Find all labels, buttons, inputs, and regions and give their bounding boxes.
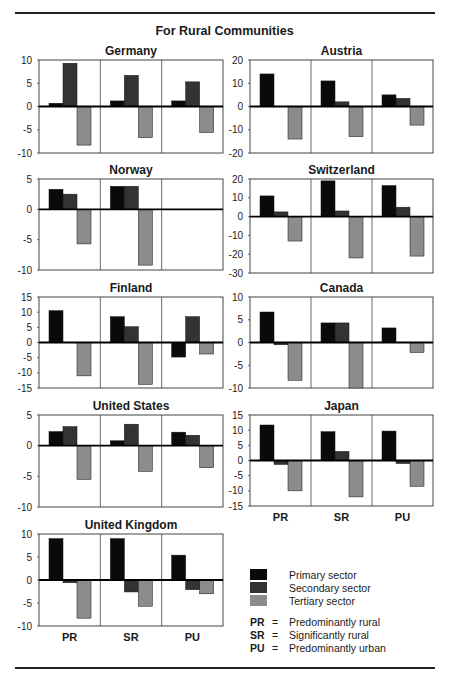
- bar-primary: [172, 555, 186, 580]
- bar-secondary: [63, 427, 77, 446]
- bar-tertiary: [410, 343, 424, 353]
- abbr-code: PR: [250, 616, 272, 628]
- bar-tertiary: [288, 461, 302, 491]
- abbr-eq: =: [272, 629, 289, 641]
- bar-tertiary: [77, 343, 91, 376]
- bar-tertiary: [138, 209, 152, 265]
- y-tick-label: 10: [21, 55, 33, 66]
- y-tick-label: 5: [26, 322, 32, 333]
- y-tick-label: -10: [18, 367, 33, 378]
- bar-primary: [49, 311, 63, 343]
- y-tick-label: -10: [18, 265, 33, 276]
- bar-primary: [260, 196, 274, 217]
- bar-tertiary: [138, 446, 152, 472]
- chart-canada: Canada1050-5-10: [229, 281, 433, 394]
- abbr-label: Significantly rural: [289, 629, 369, 641]
- bar-secondary: [186, 317, 200, 343]
- bar-primary: [110, 539, 124, 580]
- bar-secondary: [124, 424, 138, 445]
- bar-tertiary: [138, 580, 152, 606]
- bar-secondary: [124, 580, 138, 592]
- bar-primary: [49, 539, 63, 580]
- y-tick-label: -5: [23, 124, 32, 135]
- abbr-pr: PR = Predominantly rural: [250, 615, 386, 628]
- bar-primary: [321, 323, 335, 343]
- bar-primary: [382, 186, 396, 217]
- bar-secondary: [186, 580, 200, 590]
- bar-tertiary: [349, 461, 363, 497]
- y-tick-label: 15: [21, 292, 33, 303]
- bar-primary: [110, 186, 124, 209]
- y-tick-label: 20: [232, 55, 244, 66]
- y-tick-label: -5: [23, 234, 32, 245]
- y-tick-label: -10: [18, 148, 33, 159]
- legend-label: Tertiary sector: [289, 595, 355, 607]
- legend-label: Primary sector: [289, 569, 357, 581]
- legend-item-tertiary: Tertiary sector: [250, 594, 386, 607]
- plot-frame: [250, 179, 433, 273]
- bar-tertiary: [349, 217, 363, 258]
- chart-title: Canada: [320, 281, 364, 295]
- bar-primary: [260, 312, 274, 342]
- bar-primary: [321, 432, 335, 461]
- bar-primary: [321, 181, 335, 217]
- y-tick-label: 5: [26, 174, 32, 185]
- bar-secondary: [335, 323, 349, 343]
- y-tick-label: 10: [21, 307, 33, 318]
- y-tick-label: 15: [232, 410, 244, 421]
- bar-tertiary: [77, 209, 91, 244]
- bar-primary: [172, 432, 186, 445]
- bar-tertiary: [200, 446, 214, 468]
- bar-primary: [382, 328, 396, 343]
- bar-primary: [382, 431, 396, 460]
- bottom-rule: [15, 667, 435, 669]
- bar-tertiary: [349, 343, 363, 389]
- y-tick-label: 10: [232, 78, 244, 89]
- abbr-code: PU: [250, 642, 272, 654]
- abbr-eq: =: [272, 642, 289, 654]
- y-tick-label: 10: [232, 425, 244, 436]
- x-tick-label: SR: [123, 631, 138, 643]
- bar-secondary: [186, 82, 200, 107]
- bar-secondary: [63, 63, 77, 106]
- bar-primary: [49, 189, 63, 209]
- chart-united-states: United States50-5-10: [18, 399, 223, 513]
- y-tick-label: -5: [23, 471, 32, 482]
- bar-tertiary: [200, 343, 214, 355]
- y-tick-label: -15: [229, 501, 244, 512]
- chart-germany: Germany1050-5-10: [18, 44, 223, 159]
- y-tick-label: 0: [26, 440, 32, 451]
- y-tick-label: -10: [18, 502, 33, 513]
- y-tick-label: 5: [237, 314, 243, 325]
- bar-primary: [49, 432, 63, 446]
- chart-title: Switzerland: [308, 163, 375, 177]
- bar-primary: [260, 74, 274, 107]
- y-tick-label: 0: [26, 575, 32, 586]
- y-tick-label: 0: [26, 337, 32, 348]
- y-tick-label: -5: [234, 360, 243, 371]
- bar-tertiary: [138, 107, 152, 138]
- y-tick-label: -20: [229, 148, 244, 159]
- x-tick-label: SR: [334, 511, 349, 523]
- abbr-label: Predominantly rural: [289, 616, 380, 628]
- bar-primary: [321, 81, 335, 107]
- y-tick-label: -5: [234, 470, 243, 481]
- chart-norway: Norway50-5-10: [18, 163, 223, 276]
- chart-austria: Austria20100-10-20: [229, 44, 433, 159]
- bar-tertiary: [410, 461, 424, 487]
- abbr-sr: SR = Significantly rural: [250, 628, 386, 641]
- bar-tertiary: [77, 107, 91, 146]
- bar-primary: [382, 95, 396, 107]
- y-tick-label: -10: [229, 230, 244, 241]
- y-tick-label: -5: [23, 352, 32, 363]
- bar-secondary: [396, 207, 410, 216]
- abbr-code: SR: [250, 629, 272, 641]
- bar-tertiary: [200, 580, 214, 594]
- bar-tertiary: [77, 580, 91, 618]
- bar-primary: [260, 425, 274, 460]
- chart-switzerland: Switzerland20100-10-20-30: [229, 163, 433, 279]
- y-tick-label: 0: [237, 211, 243, 222]
- bar-tertiary: [288, 217, 302, 241]
- y-tick-label: 0: [26, 101, 32, 112]
- chart-title: Norway: [109, 163, 153, 177]
